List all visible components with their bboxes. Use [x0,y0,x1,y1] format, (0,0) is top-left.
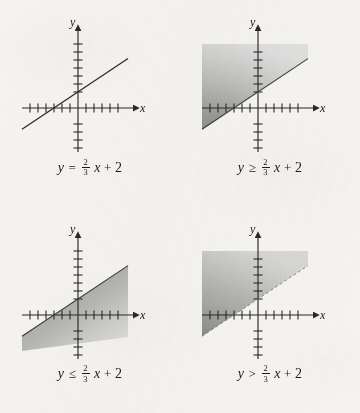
caption-variable: x [94,366,100,382]
fraction-denominator: 3 [82,168,89,177]
fraction-numerator: 2 [262,364,269,373]
panel-greater-equal: x [180,0,360,207]
x-axis-label: x [139,308,146,322]
shaded-region-below [22,265,128,350]
caption-operator: + [104,366,112,382]
x-axis-label: x [319,308,326,322]
caption-fraction: 2 3 [82,158,90,177]
caption-equation: y = 2 3 x + 2 [0,158,180,177]
caption-greater-equal: y ≥ 2 3 x + 2 [180,158,360,177]
caption-relation: ≥ [248,160,257,176]
caption-lhs: y [58,160,64,176]
fraction-numerator: 2 [82,364,89,373]
shaded-region-above [202,251,308,336]
inequality-graphs-figure: x [0,0,360,413]
caption-lhs: y [238,366,244,382]
panel-equation: x [0,0,180,207]
coordinate-plane-less-equal: x [0,211,180,366]
panel-less-equal: x [0,207,180,413]
fraction-denominator: 3 [82,374,89,383]
fraction-numerator: 2 [262,158,269,167]
plot-less-equal: x [0,211,180,366]
caption-relation: ≤ [68,366,77,382]
caption-relation: > [248,366,258,382]
caption-operator: + [284,160,292,176]
x-axis: x [22,101,146,115]
shaded-region-above [202,44,308,129]
caption-fraction: 2 3 [82,364,90,383]
plot-greater-equal: x [180,4,360,159]
plot-equation: x [0,4,180,159]
caption-operator: + [104,160,112,176]
caption-constant: 2 [115,160,122,176]
y-axis-label: y [69,15,76,29]
fraction-denominator: 3 [262,374,269,383]
caption-constant: 2 [115,366,122,382]
caption-fraction: 2 3 [262,158,270,177]
caption-greater: y > 2 3 x + 2 [180,365,360,384]
caption-lhs: y [58,366,64,382]
y-axis: y [69,15,83,152]
coordinate-plane-greater-equal: x [180,4,360,159]
fraction-denominator: 3 [262,168,269,177]
boundary-line [22,59,128,130]
caption-fraction: 2 3 [262,364,270,383]
plot-greater: x [180,211,360,366]
y-axis-label: y [249,15,256,29]
caption-constant: 2 [295,366,302,382]
x-axis-label: x [319,101,326,115]
caption-operator: + [284,366,292,382]
coordinate-plane-equation: x [0,4,180,159]
caption-lhs: y [238,160,244,176]
caption-variable: x [274,366,280,382]
y-axis-label: y [249,222,256,236]
y-axis-label: y [69,222,76,236]
fraction-numerator: 2 [82,158,89,167]
caption-relation: = [68,160,78,176]
caption-constant: 2 [295,160,302,176]
caption-less-equal: y ≤ 2 3 x + 2 [0,365,180,384]
coordinate-plane-greater: x [180,211,360,366]
caption-variable: x [94,160,100,176]
panel-greater: x [180,207,360,413]
x-axis-label: x [139,101,146,115]
caption-variable: x [274,160,280,176]
